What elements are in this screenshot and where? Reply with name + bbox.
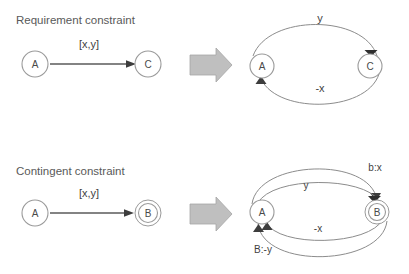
contingent-right-graph: b:x y -x B:-y A B bbox=[250, 162, 389, 257]
node-label-b-contingent-right: B bbox=[374, 207, 381, 218]
node-label-a-requirement-right: A bbox=[259, 61, 266, 72]
node-label-a-contingent-left: A bbox=[32, 208, 39, 219]
edge-label-contingent-y: y bbox=[304, 180, 309, 191]
arc-b-to-a-negy bbox=[258, 221, 387, 257]
edge-a-to-b-arrowhead bbox=[124, 209, 134, 217]
section-title-contingent: Contingent constraint bbox=[16, 165, 125, 177]
section-contingent: Contingent constraint [x,y] A B b:x y bbox=[16, 162, 389, 257]
node-label-b-contingent-left: B bbox=[145, 208, 152, 219]
block-arrow-requirement-shape bbox=[190, 48, 232, 82]
edge-label-requirement-interval: [x,y] bbox=[79, 38, 99, 50]
node-label-a-contingent-right: A bbox=[259, 207, 266, 218]
arc-a-to-c-y bbox=[253, 25, 377, 57]
node-label-c-requirement-left: C bbox=[144, 59, 151, 70]
node-label-a-requirement-left: A bbox=[32, 59, 39, 70]
block-arrow-contingent bbox=[190, 197, 232, 231]
edge-label-contingent-negx: -x bbox=[314, 223, 322, 234]
edge-label-contingent-bx: b:x bbox=[368, 162, 381, 173]
section-title-requirement: Requirement constraint bbox=[16, 14, 136, 26]
edge-label-requirement-negx: -x bbox=[315, 82, 325, 94]
section-requirement: Requirement constraint [x,y] A C y -x bbox=[16, 12, 382, 104]
edge-label-requirement-y: y bbox=[317, 12, 323, 24]
node-label-c-requirement-right: C bbox=[366, 61, 373, 72]
arc-a-to-b-bx bbox=[252, 169, 377, 204]
block-arrow-requirement bbox=[190, 48, 232, 82]
edge-label-contingent-interval: [x,y] bbox=[79, 187, 99, 199]
arc-b-to-a-negx bbox=[266, 219, 383, 240]
block-arrow-contingent-shape bbox=[190, 197, 232, 231]
arc-a-to-b-y bbox=[258, 182, 379, 203]
edge-label-contingent-negy: B:-y bbox=[254, 244, 272, 255]
arc-b-to-a-negy-arrowhead bbox=[253, 224, 264, 232]
requirement-left-graph: [x,y] A C bbox=[22, 38, 161, 77]
contingent-left-graph: [x,y] A B bbox=[22, 187, 161, 226]
requirement-right-graph: y -x A C bbox=[250, 12, 382, 104]
constraint-transformation-diagram: Requirement constraint [x,y] A C y -x bbox=[0, 0, 409, 274]
